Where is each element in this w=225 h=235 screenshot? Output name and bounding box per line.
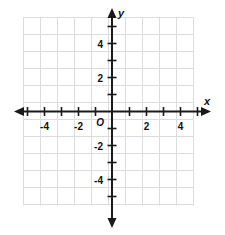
y-axis-label: y [117, 7, 125, 19]
y-tick-label-pos2: 2 [97, 73, 103, 84]
coordinate-plane-svg: -4 -2 2 4 4 2 -2 -4 O x y [0, 0, 225, 235]
x-tick-label-neg4: -4 [40, 121, 49, 132]
coordinate-plane-figure: -4 -2 2 4 4 2 -2 -4 O x y [0, 0, 225, 235]
y-tick-label-neg2: -2 [94, 141, 103, 152]
x-tick-label-pos4: 4 [178, 121, 184, 132]
y-tick-label-neg4: -4 [94, 175, 103, 186]
x-axis-label: x [203, 95, 211, 107]
y-tick-label-pos4: 4 [97, 39, 103, 50]
origin-label: O [96, 117, 104, 128]
x-tick-label-neg2: -2 [74, 121, 83, 132]
x-tick-label-pos2: 2 [144, 121, 150, 132]
